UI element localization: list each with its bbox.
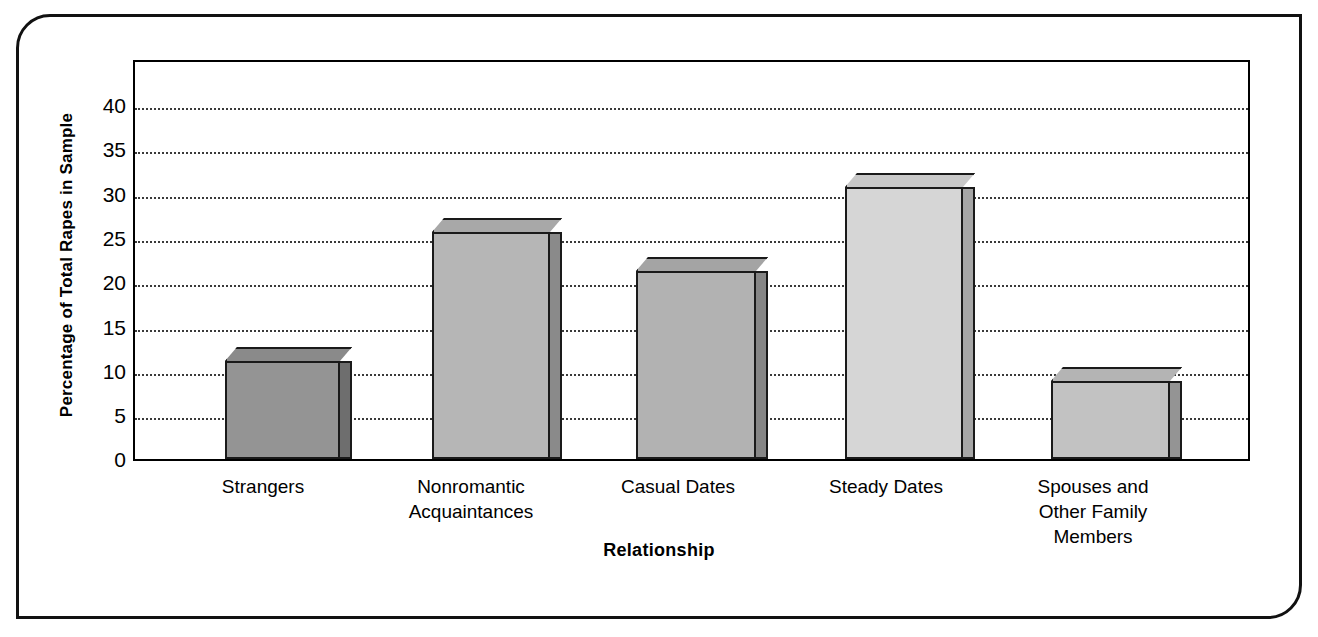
bar-spouses-other-family-members-top [1051, 367, 1182, 381]
x-label-spouses-other-family-members-line2: Other Family [993, 499, 1193, 524]
bar-steady-dates-side [963, 187, 975, 459]
gridline-30 [135, 197, 1248, 199]
bar-nonromantic-acquaintances-front [432, 232, 550, 459]
bar-casual-dates-front [636, 271, 756, 459]
plot-area [133, 60, 1250, 461]
bar-spouses-other-family-members[interactable] [1051, 381, 1170, 459]
bar-strangers[interactable] [225, 361, 340, 459]
x-label-nonromantic-acquaintances: Nonromantic Acquaintances [371, 474, 571, 524]
x-label-nonromantic-acquaintances-line2: Acquaintances [371, 499, 571, 524]
bar-steady-dates[interactable] [845, 187, 963, 459]
x-label-spouses-other-family-members: Spouses and Other Family Members [993, 474, 1193, 549]
x-label-steady-dates: Steady Dates [786, 474, 986, 499]
y-tick-30: 30 [82, 184, 126, 205]
y-axis-tick-labels: 40 35 30 25 20 15 10 5 0 [78, 60, 126, 461]
x-axis-title: Relationship [0, 540, 1318, 561]
bar-strangers-top [225, 347, 352, 361]
x-label-nonromantic-acquaintances-line1: Nonromantic [371, 474, 571, 499]
y-tick-5: 5 [82, 405, 126, 426]
gridline-40 [135, 108, 1248, 110]
y-tick-15: 15 [82, 317, 126, 338]
x-label-casual-dates-line1: Casual Dates [578, 474, 778, 499]
y-axis-title: Percentage of Total Rapes in Sample [57, 65, 77, 465]
bar-strangers-front [225, 361, 340, 459]
y-tick-0: 0 [82, 449, 126, 470]
x-label-strangers: Strangers [163, 474, 363, 499]
bar-nonromantic-acquaintances-top [432, 218, 562, 232]
x-label-strangers-line1: Strangers [163, 474, 363, 499]
bar-steady-dates-front [845, 187, 963, 459]
bar-spouses-other-family-members-side [1170, 381, 1182, 459]
bar-steady-dates-top [845, 173, 975, 187]
y-tick-10: 10 [82, 361, 126, 382]
bar-casual-dates[interactable] [636, 271, 756, 459]
y-tick-35: 35 [82, 139, 126, 160]
bar-casual-dates-side [756, 271, 768, 459]
y-tick-40: 40 [82, 95, 126, 116]
bar-spouses-other-family-members-front [1051, 381, 1170, 459]
y-tick-25: 25 [82, 228, 126, 249]
bar-strangers-side [340, 361, 352, 459]
figure-container: Percentage of Total Rapes in Sample 40 3… [0, 0, 1318, 637]
bar-nonromantic-acquaintances-side [550, 232, 562, 459]
gridline-25 [135, 241, 1248, 243]
y-tick-20: 20 [82, 272, 126, 293]
bar-casual-dates-top [636, 257, 768, 271]
bar-nonromantic-acquaintances[interactable] [432, 232, 550, 459]
x-label-spouses-other-family-members-line1: Spouses and [993, 474, 1193, 499]
x-label-casual-dates: Casual Dates [578, 474, 778, 499]
gridline-35 [135, 152, 1248, 154]
x-label-steady-dates-line1: Steady Dates [786, 474, 986, 499]
